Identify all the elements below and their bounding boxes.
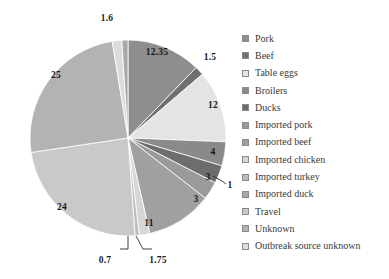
legend-swatch-icon bbox=[242, 70, 249, 77]
slice-label-12-35: 12.35 bbox=[146, 47, 168, 57]
slice-label-0-7: 0.7 bbox=[99, 255, 111, 265]
pie-chart: 1.6 12.35 1.5 12 4 3 1 3 11 1.75 0.7 24 … bbox=[0, 0, 232, 279]
legend-item[interactable]: Table eggs bbox=[242, 65, 389, 82]
legend-item-label: Ducks bbox=[255, 103, 281, 113]
slice-label-12: 12 bbox=[208, 100, 218, 110]
legend-item[interactable]: Imported turkey bbox=[242, 168, 389, 185]
legend-item-label: Imported duck bbox=[255, 189, 314, 199]
legend-swatch-icon bbox=[242, 139, 249, 146]
legend-item-label: Beef bbox=[255, 51, 274, 61]
legend-item[interactable]: Beef bbox=[242, 47, 389, 64]
legend-swatch-icon bbox=[242, 225, 249, 232]
pie-svg bbox=[0, 0, 232, 279]
legend-swatch-icon bbox=[242, 191, 249, 198]
pie-slice[interactable] bbox=[30, 41, 128, 152]
legend-item-label: Unknown bbox=[255, 224, 294, 234]
legend-swatch-icon bbox=[242, 104, 249, 111]
legend-swatch-icon bbox=[242, 35, 249, 42]
legend-item-label: Pork bbox=[255, 34, 274, 44]
legend-swatch-icon bbox=[242, 87, 249, 94]
leader-line-0-7 bbox=[120, 236, 128, 249]
legend-item[interactable]: Unknown bbox=[242, 220, 389, 237]
legend-swatch-icon bbox=[242, 174, 249, 181]
legend-item-label: Broilers bbox=[255, 86, 287, 96]
legend-item-label: Imported turkey bbox=[255, 172, 320, 182]
legend-item-label: Travel bbox=[255, 207, 281, 217]
slice-label-4: 4 bbox=[211, 147, 216, 157]
legend-item[interactable]: Imported duck bbox=[242, 186, 389, 203]
legend-item[interactable]: Outbreak source unknown bbox=[242, 238, 389, 255]
legend-item[interactable]: Ducks bbox=[242, 99, 389, 116]
legend-swatch-icon bbox=[242, 208, 249, 215]
legend-swatch-icon bbox=[242, 52, 249, 59]
slice-label-25: 25 bbox=[51, 70, 61, 80]
slice-label-1: 1 bbox=[228, 180, 233, 190]
legend-item[interactable]: Imported pork bbox=[242, 116, 389, 133]
leader-line-1-75 bbox=[136, 236, 152, 249]
chart-root: 1.6 12.35 1.5 12 4 3 1 3 11 1.75 0.7 24 … bbox=[0, 0, 389, 279]
legend-swatch-icon bbox=[242, 243, 249, 250]
slice-label-3-lower: 3 bbox=[194, 194, 199, 204]
legend-swatch-icon bbox=[242, 122, 249, 129]
slice-label-1-5: 1.5 bbox=[204, 52, 216, 62]
legend-swatch-icon bbox=[242, 156, 249, 163]
slice-label-11: 11 bbox=[144, 218, 153, 228]
slice-label-3-upper: 3 bbox=[206, 172, 211, 182]
legend-item[interactable]: Broilers bbox=[242, 82, 389, 99]
legend-item-label: Imported pork bbox=[255, 120, 313, 130]
legend-item-label: Imported beef bbox=[255, 137, 311, 147]
legend-item[interactable]: Imported chicken bbox=[242, 151, 389, 168]
legend-item-label: Outbreak source unknown bbox=[255, 241, 361, 251]
legend-item[interactable]: Pork bbox=[242, 30, 389, 47]
legend-item[interactable]: Travel bbox=[242, 203, 389, 220]
legend-item-label: Imported chicken bbox=[255, 155, 325, 165]
slice-label-1-75: 1.75 bbox=[149, 255, 166, 265]
legend-item[interactable]: Imported beef bbox=[242, 134, 389, 151]
pie-slice[interactable] bbox=[31, 138, 135, 236]
slice-label-1-6: 1.6 bbox=[101, 13, 113, 23]
chart-legend: PorkBeefTable eggsBroilersDucksImported … bbox=[242, 30, 389, 255]
legend-item-label: Table eggs bbox=[255, 68, 298, 78]
slice-label-24: 24 bbox=[57, 202, 67, 212]
